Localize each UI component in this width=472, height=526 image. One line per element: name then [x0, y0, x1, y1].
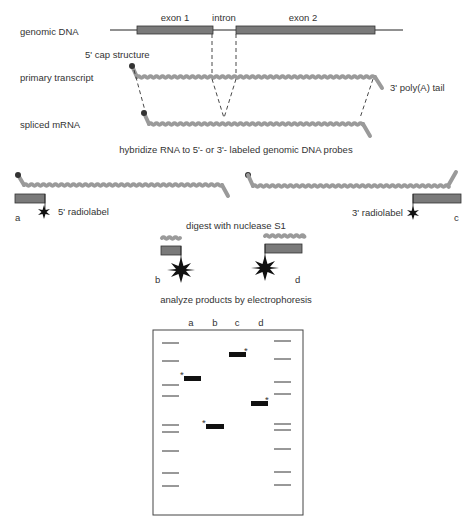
probe-c-dna — [413, 194, 461, 203]
spliced-mrna-rna — [141, 110, 370, 136]
radiolabel-star-a-icon — [38, 205, 50, 219]
gel-lane-label-d: d — [258, 317, 263, 328]
band-marker-a: * — [180, 369, 184, 380]
label-5-radiolabel: 5' radiolabel — [58, 206, 109, 217]
dash-splice-left — [212, 79, 224, 118]
cap-dot-icon — [15, 172, 21, 178]
label-exon2: exon 2 — [289, 12, 318, 23]
probe-label-a: a — [15, 212, 21, 223]
primary-transcript-rna — [129, 63, 382, 88]
product-d-dna — [265, 244, 302, 253]
product-b — [161, 237, 181, 270]
cap-dot-icon — [129, 63, 135, 69]
band-marker-d: * — [265, 394, 269, 405]
probe-a-dna — [15, 194, 45, 203]
label-primary-transcript: primary transcript — [20, 72, 94, 83]
label-exon1: exon 1 — [161, 12, 190, 23]
label-intron: intron — [212, 12, 236, 23]
step-hybridize: hybridize RNA to 5'- or 3'- labeled geno… — [119, 144, 353, 155]
label-cap: 5' cap structure — [85, 49, 150, 60]
label-3-radiolabel: 3' radiolabel — [352, 207, 403, 218]
exon1-box — [137, 26, 213, 34]
radiolabel-star-d-icon — [251, 255, 279, 281]
gel-box — [153, 330, 303, 515]
product-label-d: d — [295, 274, 300, 285]
product-label-b: b — [155, 274, 160, 285]
hybrid-5prime — [15, 172, 228, 212]
band-marker-b: * — [202, 417, 206, 428]
radiolabel-star-c-icon — [407, 206, 419, 220]
dash-splice-right — [224, 79, 236, 118]
gel-band-a — [184, 376, 201, 381]
radiolabel-star-b-icon — [167, 257, 195, 283]
gel-lane-label-b: b — [212, 317, 217, 328]
gel-lane-label-c: c — [235, 317, 240, 328]
s1-mapping-diagram: genomic DNA exon 1 intron exon 2 5' cap … — [0, 0, 472, 526]
band-marker-c: * — [244, 345, 248, 356]
cap-dot-icon — [141, 110, 147, 116]
exon2-box — [236, 26, 375, 34]
step-digest: digest with nuclease S1 — [186, 220, 286, 231]
gel-lane-label-a: a — [188, 317, 194, 328]
step-analyze: analyze products by electrophoresis — [160, 294, 312, 305]
product-b-dna — [161, 246, 181, 255]
dash-3prime — [360, 79, 373, 118]
probe-label-c: c — [454, 212, 459, 223]
label-spliced-mrna: spliced mRNA — [20, 119, 81, 130]
label-genomic-dna: genomic DNA — [20, 26, 79, 37]
gel-band-b — [206, 424, 224, 429]
label-polya: 3' poly(A) tail — [390, 82, 445, 93]
